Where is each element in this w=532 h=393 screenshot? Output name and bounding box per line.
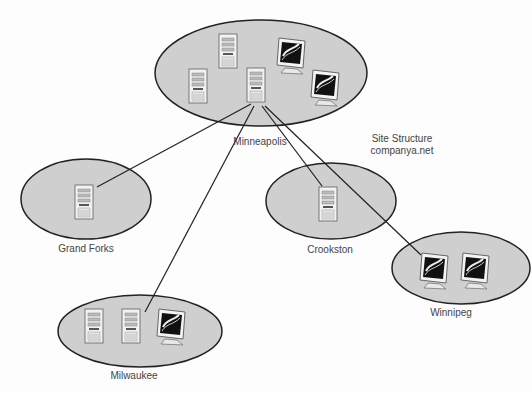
server-icon bbox=[219, 34, 237, 68]
site-label-crookston: Crookston bbox=[307, 244, 353, 255]
site-structure-diagram: Minneapolis Grand Forks Crookston Winnip… bbox=[0, 0, 532, 393]
diagram-title-line2: companya.net bbox=[371, 145, 434, 157]
site-label-grand-forks: Grand Forks bbox=[58, 243, 114, 254]
server-icon bbox=[122, 309, 140, 343]
diagram-title-line1: Site Structure bbox=[371, 133, 434, 145]
server-icon bbox=[247, 68, 265, 102]
diagram-canvas bbox=[0, 0, 532, 393]
server-icon bbox=[319, 187, 337, 221]
site-label-minneapolis: Minneapolis bbox=[233, 136, 286, 147]
site-label-winnipeg: Winnipeg bbox=[430, 307, 472, 318]
server-icon bbox=[85, 309, 103, 343]
diagram-title: Site Structure companya.net bbox=[371, 133, 434, 157]
site-winnipeg-ellipse bbox=[392, 232, 530, 304]
link-minneapolis-grand-forks bbox=[97, 104, 251, 187]
server-icon bbox=[189, 69, 207, 103]
server-icon bbox=[75, 185, 93, 219]
site-label-milwaukee: Milwaukee bbox=[110, 370, 157, 381]
